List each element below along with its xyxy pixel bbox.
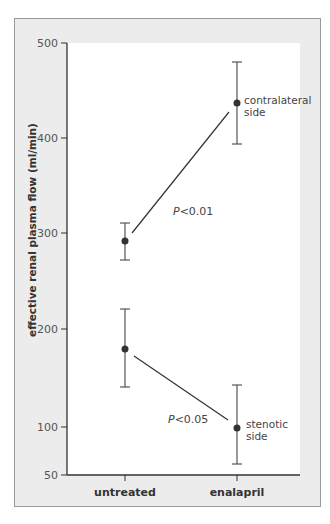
x-label-untreated: untreated <box>94 486 156 499</box>
point-sten-enalapril <box>234 425 241 432</box>
point-contra-enalapril <box>234 100 241 107</box>
contralateral-label-2: side <box>244 106 266 118</box>
point-contra-untreated <box>122 238 129 245</box>
y-tick-100: 100 <box>37 421 58 434</box>
y-tick-200: 200 <box>37 323 58 336</box>
p-value-stenotic: P<0.05 <box>168 413 208 426</box>
point-sten-untreated <box>122 346 129 353</box>
y-ticks <box>61 43 67 475</box>
stenotic-label-1: stenotic <box>246 418 288 430</box>
x-label-enalapril: enalapril <box>210 486 265 499</box>
y-tick-500: 500 <box>37 37 58 50</box>
chart-svg: 500 400 300 200 100 50 effective renal p… <box>0 0 330 524</box>
y-tick-300: 300 <box>37 227 58 240</box>
stenotic-label-2: side <box>246 430 268 442</box>
y-tick-400: 400 <box>37 132 58 145</box>
p-value-contralateral: P<0.01 <box>173 205 213 218</box>
y-axis-label: effective renal plasma flow (ml/min) <box>26 123 38 337</box>
contralateral-label-1: contralateral <box>244 94 311 106</box>
y-tick-50: 50 <box>44 469 58 482</box>
